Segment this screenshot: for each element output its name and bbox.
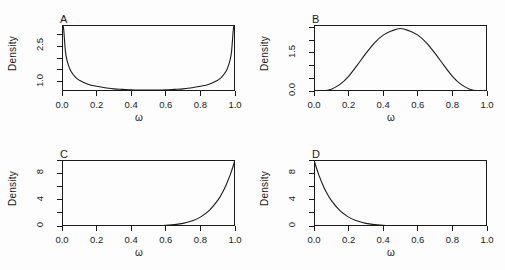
density-curve — [314, 29, 487, 91]
x-tick-label: 0.6 — [151, 99, 181, 110]
x-tick-label: 0.8 — [185, 234, 215, 245]
x-tick-label: 0.4 — [116, 234, 146, 245]
density-curve — [62, 160, 235, 226]
panel-a: A Density ω 0.00.20.40.60.81.01.02.5 — [0, 0, 252, 135]
y-tick-label: 0 — [34, 210, 45, 240]
x-tick-label: 0.0 — [299, 99, 329, 110]
panel-c: C Density ω 0.00.20.40.60.81.0048 — [0, 135, 252, 270]
plot-box — [63, 26, 235, 91]
x-tick-label: 0.4 — [116, 99, 146, 110]
x-tick-label: 0.6 — [151, 234, 181, 245]
density-curve — [314, 160, 487, 226]
x-tick-label: 0.4 — [368, 234, 398, 245]
x-tick-label: 1.0 — [220, 234, 250, 245]
x-tick-label: 0.8 — [185, 99, 215, 110]
x-tick-label: 1.0 — [220, 99, 250, 110]
x-tick-label: 0.2 — [82, 234, 112, 245]
y-tick-label: 2.5 — [34, 30, 45, 60]
y-tick-label: 4 — [34, 183, 45, 213]
panel-b-plot-area — [252, 0, 504, 135]
x-tick-label: 0.4 — [368, 99, 398, 110]
x-tick-label: 0.2 — [334, 99, 364, 110]
plot-box — [63, 161, 235, 226]
y-tick-label: 0 — [286, 210, 297, 240]
plot-box — [315, 161, 487, 226]
x-tick-label: 0.8 — [437, 99, 467, 110]
x-tick-label: 1.0 — [472, 234, 502, 245]
figure-canvas: A Density ω 0.00.20.40.60.81.01.02.5 B D… — [0, 0, 505, 270]
x-tick-label: 1.0 — [472, 99, 502, 110]
y-tick-label: 8 — [286, 157, 297, 187]
x-tick-label: 0.0 — [47, 234, 77, 245]
x-tick-label: 0.8 — [437, 234, 467, 245]
panel-b: B Density ω 0.00.20.40.60.81.00.01.5 — [252, 0, 504, 135]
panel-d: D Density ω 0.00.20.40.60.81.0048 — [252, 135, 504, 270]
density-curve — [63, 25, 234, 90]
y-tick-label: 0.0 — [286, 75, 297, 105]
plot-box — [315, 26, 487, 91]
x-tick-label: 0.6 — [403, 234, 433, 245]
x-tick-label: 0.2 — [334, 234, 364, 245]
y-tick-label: 1.0 — [34, 65, 45, 95]
y-tick-label: 1.5 — [286, 36, 297, 66]
x-tick-label: 0.0 — [47, 99, 77, 110]
x-tick-label: 0.0 — [299, 234, 329, 245]
x-tick-label: 0.2 — [82, 99, 112, 110]
x-tick-label: 0.6 — [403, 99, 433, 110]
y-tick-label: 8 — [34, 157, 45, 187]
y-tick-label: 4 — [286, 183, 297, 213]
